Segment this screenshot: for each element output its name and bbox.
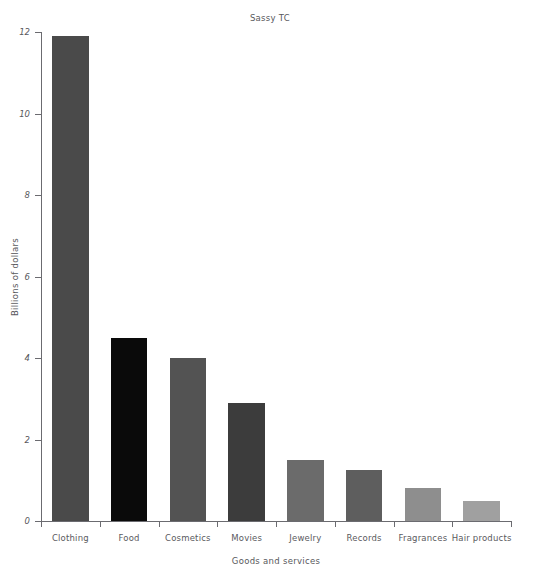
x-axis-tick [452, 521, 453, 527]
x-axis-tick-label: Cosmetics [165, 533, 211, 543]
x-axis-tick [41, 521, 42, 527]
x-axis-tick-label: Jewelry [289, 533, 321, 543]
x-axis-tick [100, 521, 101, 527]
x-axis-tick [394, 521, 395, 527]
x-axis-tick-label: Food [119, 533, 140, 543]
bar[interactable] [111, 338, 147, 521]
bar[interactable] [228, 403, 264, 521]
x-axis-tick [276, 521, 277, 527]
plot-area [41, 32, 511, 521]
x-axis-tick-label: Records [347, 533, 382, 543]
bar[interactable] [52, 36, 88, 521]
bar[interactable] [405, 488, 441, 521]
x-axis-tick-label: Movies [231, 533, 262, 543]
x-axis-tick [511, 521, 512, 527]
x-axis-tick-label: Hair products [452, 533, 512, 543]
chart-title: Sassy TC [0, 13, 540, 23]
x-axis-title: Goods and services [41, 556, 511, 566]
x-axis-tick [159, 521, 160, 527]
bar[interactable] [287, 460, 323, 521]
x-axis-tick [335, 521, 336, 527]
y-axis-title-container: Billions of dollars [22, 32, 34, 521]
bar-chart: Sassy TC 024681012 Billions of dollars C… [0, 0, 540, 582]
x-axis-tick-label: Clothing [52, 533, 89, 543]
y-axis-title: Billions of dollars [10, 237, 20, 315]
x-axis-tick-label: Fragrances [398, 533, 447, 543]
bar[interactable] [463, 501, 499, 521]
x-axis-tick [217, 521, 218, 527]
bar[interactable] [170, 358, 206, 521]
bar[interactable] [346, 470, 382, 521]
